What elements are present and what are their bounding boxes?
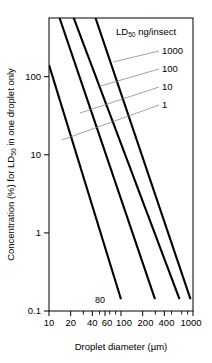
legend-title-units: ng/insect [136,26,177,37]
legend-title: LD50 ng/insect [116,26,177,38]
y-tick-label-10: 10 [30,149,41,160]
x-tick-label-10: 10 [44,317,55,328]
y-axis-label: Concentration (%) for LD50 in one drople… [5,68,17,261]
leader-line-1 [62,105,159,140]
legend-label-100: 100 [162,63,178,74]
annotation-80: 80 [95,295,105,305]
y-tick-label-0.1: 0.1 [28,305,41,316]
y-tick-label-1: 1 [36,227,41,238]
curve-ld50-1 [49,65,121,299]
y-axis-ticks [44,77,49,311]
x-tick-label-60: 60 [102,317,113,328]
chart-figure: 100 10 1 0.1 10 20 40 60 [0,0,212,363]
x-tick-label-20: 20 [65,317,76,328]
x-tick-label-100: 100 [116,317,132,328]
y-axis-label-part1: Concentration (%) for LD [5,156,16,261]
x-tick-label-40: 40 [87,317,98,328]
y-tick-label-100: 100 [25,71,41,82]
x-tick-label-200: 200 [138,317,154,328]
plot-frame [49,18,193,311]
legend-label-1000: 1000 [162,45,183,56]
y-axis-label-part2: in one droplet only [5,68,16,149]
legend-title-ld: LD [116,26,128,37]
x-axis-label: Droplet diameter (µm) [75,341,168,352]
x-tick-label-400: 400 [159,317,175,328]
legend-label-1: 1 [162,99,167,110]
leader-line-1000 [113,51,159,62]
leader-line-100 [97,69,159,87]
x-axis-minor-ticks [83,311,187,315]
ld50-concentration-chart: 100 10 1 0.1 10 20 40 60 [0,0,212,363]
x-tick-label-1000: 1000 [180,317,201,328]
legend-label-10: 10 [162,81,173,92]
